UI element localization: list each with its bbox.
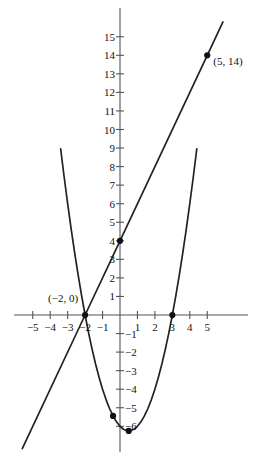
y-tick-label: 1: [93, 291, 115, 302]
y-tick-label: 13: [93, 69, 115, 80]
y-tick-label: −3: [125, 366, 147, 377]
y-tick-label: 5: [93, 217, 115, 228]
y-tick-label: 4: [93, 236, 115, 247]
y-tick-label: 7: [93, 180, 115, 191]
curves-group: [22, 22, 223, 449]
y-tick-label: 6: [93, 199, 115, 210]
y-tick-label: 2: [93, 273, 115, 284]
y-tick-label: −5: [125, 403, 147, 414]
y-tick-label: 15: [93, 32, 115, 43]
data-point-line-y-intercept: [117, 238, 123, 244]
y-tick-label: 3: [93, 254, 115, 265]
y-tick-label: −1: [125, 329, 147, 340]
y-tick-label: −2: [125, 347, 147, 358]
y-tick-label: −4: [125, 384, 147, 395]
y-tick-label: 11: [93, 106, 115, 117]
data-point-intersection-right: [204, 52, 210, 58]
x-tick-label: 5: [195, 322, 219, 333]
y-tick-label: 10: [93, 125, 115, 136]
graph-figure: −5−4−3−2−112345151413121110987654321−1−2…: [0, 0, 262, 460]
point-label-right: (5, 14): [213, 56, 242, 67]
y-tick-label: 14: [93, 50, 115, 61]
y-tick-label: 12: [93, 87, 115, 98]
y-tick-label: 8: [93, 162, 115, 173]
data-point-parabola-x-intercept-right: [169, 312, 175, 318]
data-point-parabola-point-left-of-vertex: [110, 413, 116, 419]
y-tick-label: −6: [125, 421, 147, 432]
data-point-intersection-left: [82, 312, 88, 318]
y-tick-label: 9: [93, 143, 115, 154]
point-label-left: (−2, 0): [48, 293, 78, 304]
x-tick-label: −1: [91, 322, 115, 333]
line-curve: [22, 22, 223, 449]
